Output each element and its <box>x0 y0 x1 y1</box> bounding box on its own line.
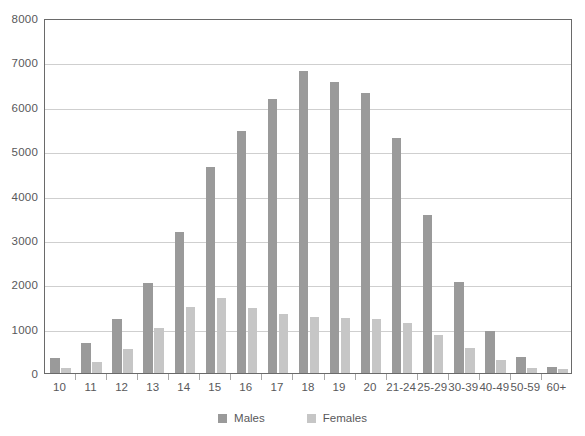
bar-males-13 <box>143 283 153 373</box>
x-tick <box>324 374 325 380</box>
y-tick-label: 2000 <box>0 279 38 291</box>
x-tick <box>355 374 356 380</box>
x-tick-label: 16 <box>230 381 261 393</box>
x-tick-label: 21-24 <box>386 381 417 393</box>
y-axis: 010002000300040005000600070008000 <box>0 19 38 374</box>
x-tick-label: 10 <box>44 381 75 393</box>
bars-layer <box>45 20 571 373</box>
bar-males-10 <box>50 358 60 373</box>
x-tick <box>261 374 262 380</box>
bar-males-19 <box>330 82 340 373</box>
bar-group <box>107 20 138 373</box>
bar-males-60+ <box>547 367 557 373</box>
bar-group <box>293 20 324 373</box>
chart-legend: MalesFemales <box>0 412 585 424</box>
bar-females-40-49 <box>496 360 506 373</box>
bar-males-18 <box>299 71 309 373</box>
x-tick <box>479 374 480 380</box>
y-tick-label: 3000 <box>0 235 38 247</box>
bar-group <box>387 20 418 373</box>
plot-area <box>44 19 572 374</box>
bar-group <box>262 20 293 373</box>
bar-group <box>356 20 387 373</box>
bar-females-18 <box>310 317 320 373</box>
legend-item-females[interactable]: Females <box>307 412 367 424</box>
x-tick <box>199 374 200 380</box>
x-tick <box>168 374 169 380</box>
x-tick <box>230 374 231 380</box>
x-tick <box>510 374 511 380</box>
x-tick-label: 12 <box>106 381 137 393</box>
x-tick-label: 11 <box>75 381 106 393</box>
x-tick <box>106 374 107 380</box>
x-tick <box>75 374 76 380</box>
bar-group <box>231 20 262 373</box>
x-tick-label: 14 <box>168 381 199 393</box>
x-tick-label: 40-49 <box>479 381 510 393</box>
bar-females-60+ <box>558 369 568 373</box>
bar-males-30-39 <box>454 282 464 373</box>
x-tick-label: 13 <box>137 381 168 393</box>
y-tick-label: 6000 <box>0 102 38 114</box>
bar-group <box>200 20 231 373</box>
bar-males-25-29 <box>423 215 433 373</box>
bar-group <box>325 20 356 373</box>
bar-males-40-49 <box>485 331 495 373</box>
x-tick-label: 18 <box>292 381 323 393</box>
legend-swatch-icon <box>218 414 227 423</box>
bar-females-25-29 <box>434 335 444 373</box>
x-tick-label: 50-59 <box>510 381 541 393</box>
bar-group <box>542 20 573 373</box>
bar-females-14 <box>186 307 196 373</box>
bar-males-17 <box>268 99 278 373</box>
x-tick <box>448 374 449 380</box>
bar-males-16 <box>237 131 247 373</box>
bar-group <box>511 20 542 373</box>
x-tick-label: 20 <box>355 381 386 393</box>
bar-females-17 <box>279 314 289 373</box>
legend-swatch-icon <box>307 414 316 423</box>
y-tick-label: 0 <box>0 368 38 380</box>
x-tick <box>292 374 293 380</box>
bar-females-15 <box>217 298 227 373</box>
x-axis-ticks <box>44 374 572 380</box>
bar-females-30-39 <box>465 348 475 373</box>
bar-females-50-59 <box>527 368 537 373</box>
legend-label: Males <box>234 412 265 424</box>
bar-males-11 <box>81 343 91 373</box>
x-tick-label: 17 <box>261 381 292 393</box>
bar-group <box>76 20 107 373</box>
bar-males-14 <box>175 232 185 373</box>
x-tick <box>137 374 138 380</box>
x-tick <box>541 374 542 380</box>
y-tick-label: 8000 <box>0 13 38 25</box>
x-tick-label: 60+ <box>541 381 572 393</box>
y-tick-label: 5000 <box>0 146 38 158</box>
x-tick <box>417 374 418 380</box>
bar-males-12 <box>112 319 122 373</box>
x-tick-label: 15 <box>199 381 230 393</box>
bar-males-21-24 <box>392 138 402 373</box>
bar-group <box>449 20 480 373</box>
bar-males-50-59 <box>516 357 526 373</box>
bar-females-21-24 <box>403 323 413 373</box>
bar-chart: 010002000300040005000600070008000 101112… <box>0 0 585 436</box>
x-tick-label: 25-29 <box>417 381 448 393</box>
legend-label: Females <box>323 412 367 424</box>
y-tick-label: 4000 <box>0 191 38 203</box>
bar-males-15 <box>206 167 216 373</box>
bar-females-20 <box>372 319 382 373</box>
x-tick-label: 19 <box>324 381 355 393</box>
y-tick-label: 7000 <box>0 57 38 69</box>
y-tick-label: 1000 <box>0 324 38 336</box>
x-tick <box>386 374 387 380</box>
legend-item-males[interactable]: Males <box>218 412 265 424</box>
bar-females-11 <box>92 362 102 373</box>
x-tick-label: 30-39 <box>448 381 479 393</box>
bar-group <box>169 20 200 373</box>
bar-group <box>138 20 169 373</box>
bar-females-12 <box>123 349 133 373</box>
bar-group <box>480 20 511 373</box>
bar-females-19 <box>341 318 351 373</box>
x-axis: 101112131415161718192021-2425-2930-3940-… <box>44 381 572 399</box>
